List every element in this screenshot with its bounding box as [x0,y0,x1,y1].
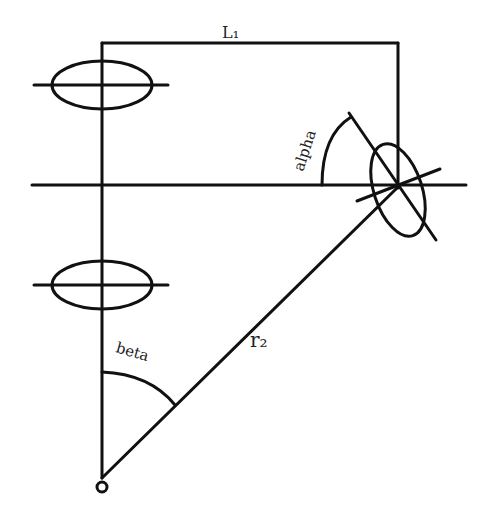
label-beta: beta [114,339,151,366]
label-r2: r₂ [250,328,268,352]
alpha-arc [322,117,351,185]
kinematic-diagram: L₁ alpha r₂ beta [0,0,491,529]
beta-arc [102,372,175,405]
label-alpha: alpha [290,128,320,174]
label-l1: L₁ [222,23,239,42]
origin-point [97,482,107,492]
